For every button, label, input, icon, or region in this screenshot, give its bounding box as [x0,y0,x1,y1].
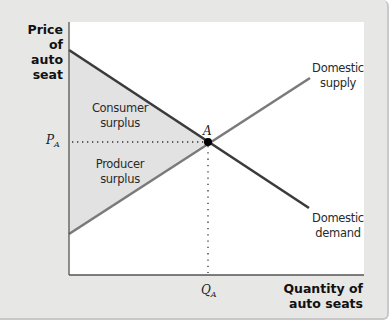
domestic-demand-label: Domestic demand [306,211,370,241]
point-a-label: A [203,124,212,139]
consumer-surplus-line2: surplus [80,116,160,131]
qa-label: QA [201,283,217,302]
consumer-surplus-label: Consumer surplus [80,101,160,131]
x-axis-title-line2: auto seats [280,296,363,311]
qa-label-main: Q [201,283,211,297]
supply-label-line1: Domestic [306,61,370,76]
y-axis-title-line2: auto seat [15,52,63,82]
domestic-supply-label: Domestic supply [306,61,370,91]
equilibrium-point-a [204,138,212,146]
producer-surplus-line1: Producer [80,157,160,172]
producer-surplus-label: Producer surplus [80,157,160,187]
qa-label-sub: A [211,290,217,299]
pa-label-sub: A [54,140,60,149]
y-axis-title-line1: Price of [15,22,63,52]
x-axis-title: Quantity of auto seats [280,281,363,311]
demand-label-line1: Domestic [306,211,370,226]
pa-label-main: P [46,133,54,147]
x-axis-title-line1: Quantity of [280,281,363,296]
demand-label-line2: demand [306,226,370,241]
y-axis-title: Price of auto seat [15,22,63,82]
consumer-surplus-line1: Consumer [80,101,160,116]
pa-label: PA [46,133,60,152]
supply-label-line2: supply [306,76,370,91]
producer-surplus-line2: surplus [80,172,160,187]
